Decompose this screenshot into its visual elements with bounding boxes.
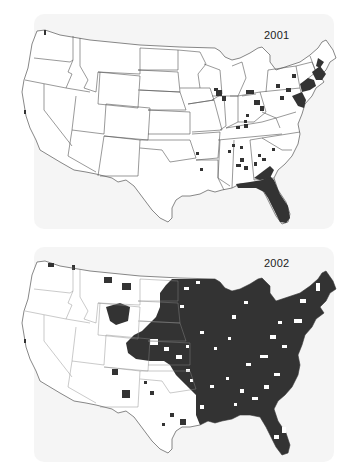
map-panel-2002: 2002 xyxy=(0,235,362,471)
year-label-2001: 2001 xyxy=(264,29,289,41)
map-panel-2001: 2001 xyxy=(0,0,362,235)
year-label-2002: 2002 xyxy=(264,257,289,269)
us-map-2002 xyxy=(0,235,362,471)
us-outline xyxy=(22,30,336,224)
us-map-2001 xyxy=(0,0,362,235)
